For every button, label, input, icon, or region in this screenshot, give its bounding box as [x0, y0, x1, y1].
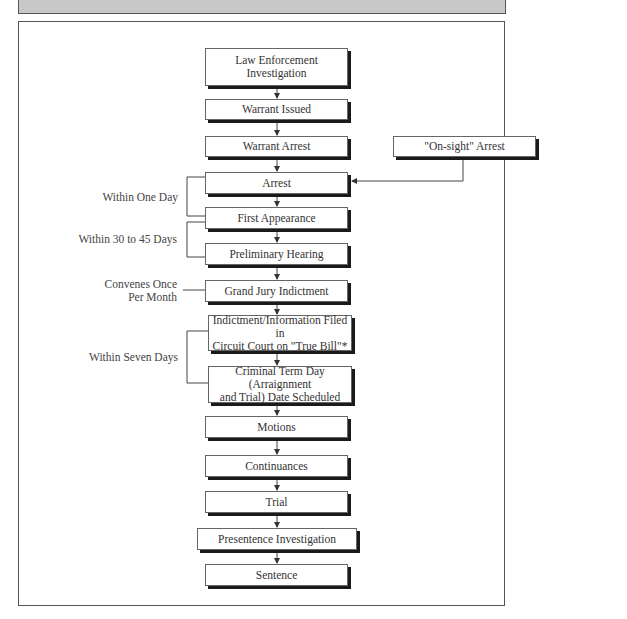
annotation-within-seven-days: Within Seven Days: [40, 351, 178, 364]
node-text: Motions: [257, 421, 295, 434]
node-onsight-arrest: "On-sight" Arrest: [393, 136, 536, 157]
node-text: Investigation: [246, 67, 306, 80]
node-text: Trial: [266, 496, 288, 509]
node-text: Preliminary Hearing: [229, 248, 323, 261]
node-law-enforcement-investigation: Law Enforcement Investigation: [205, 48, 348, 86]
node-warrant-arrest: Warrant Arrest: [205, 136, 348, 157]
node-text: Continuances: [245, 460, 308, 473]
node-trial: Trial: [205, 491, 348, 513]
node-text: Presentence Investigation: [218, 533, 336, 546]
annotation-line: Convenes Once: [60, 278, 177, 291]
node-indictment-filed: Indictment/Information Filed in Circuit …: [208, 315, 352, 351]
node-text: Law Enforcement: [235, 54, 318, 67]
node-text: Sentence: [256, 569, 298, 582]
node-continuances: Continuances: [205, 455, 348, 477]
connector-lines: [0, 0, 627, 619]
node-preliminary-hearing: Preliminary Hearing: [205, 243, 348, 265]
node-text: Circuit Court on "True Bill"*: [213, 340, 348, 353]
annotation-within-30-to-45-days: Within 30 to 45 Days: [40, 233, 177, 246]
node-warrant-issued: Warrant Issued: [205, 99, 348, 120]
node-text: "On-sight" Arrest: [424, 140, 505, 153]
annotation-convenes-once-per-month: Convenes Once Per Month: [60, 278, 177, 304]
annotation-within-one-day: Within One Day: [60, 191, 178, 204]
node-text: Warrant Arrest: [243, 140, 311, 153]
node-text: and Trial) Date Scheduled: [220, 391, 340, 404]
node-text: Criminal Term Day (Arraignment: [209, 365, 351, 391]
node-sentence: Sentence: [205, 564, 348, 586]
node-criminal-term-day: Criminal Term Day (Arraignment and Trial…: [208, 366, 352, 403]
node-grand-jury-indictment: Grand Jury Indictment: [205, 280, 348, 302]
node-text: Indictment/Information Filed in: [209, 314, 351, 340]
node-first-appearance: First Appearance: [205, 207, 348, 229]
node-text: Arrest: [262, 177, 291, 190]
node-text: First Appearance: [237, 212, 315, 225]
annotation-line: Per Month: [60, 291, 177, 304]
node-text: Warrant Issued: [242, 103, 311, 116]
node-motions: Motions: [205, 416, 348, 438]
node-arrest: Arrest: [205, 172, 348, 194]
node-text: Grand Jury Indictment: [224, 285, 328, 298]
node-presentence-investigation: Presentence Investigation: [197, 528, 357, 550]
